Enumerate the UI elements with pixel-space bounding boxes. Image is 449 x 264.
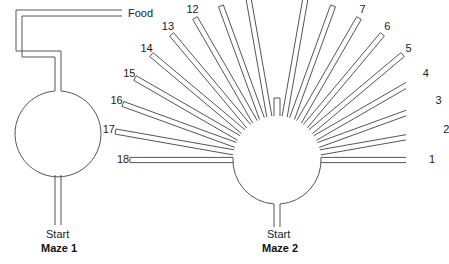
arm-label-4: 4: [423, 68, 429, 79]
arm-label-6: 6: [384, 21, 390, 32]
maze-1-food-corridor-outer: [16, 10, 122, 91]
arm-label-13: 13: [162, 21, 174, 32]
maze-1-title: Maze 1: [41, 243, 77, 254]
maze-1-start-corridor: [55, 175, 61, 225]
maze-2-title: Maze 2: [262, 243, 298, 254]
arm-label-12: 12: [187, 4, 199, 15]
arm-label-17: 17: [103, 124, 115, 135]
arm-label-11: 11: [214, 0, 225, 2]
maze-1-food-corridor: [22, 16, 122, 91]
maze-2: [115, 0, 406, 227]
arm-label-8: 8: [332, 0, 338, 2]
arm-label-18: 18: [117, 154, 129, 165]
arm-label-15: 15: [123, 68, 135, 79]
maze-1-start-label: Start: [46, 229, 69, 240]
maze-2-arms: [115, 0, 406, 227]
maze-1-chamber: [15, 91, 101, 177]
arm-label-3: 3: [436, 95, 442, 106]
arm-label-16: 16: [110, 95, 122, 106]
food-label: Food: [128, 8, 153, 19]
arm-label-5: 5: [406, 43, 412, 54]
arm-label-14: 14: [140, 43, 152, 54]
arm-label-2: 2: [443, 124, 449, 135]
arm-label-1: 1: [429, 154, 435, 165]
maze-1: [15, 10, 122, 225]
arm-label-7: 7: [360, 4, 366, 15]
maze-2-start-label: Start: [267, 229, 290, 240]
